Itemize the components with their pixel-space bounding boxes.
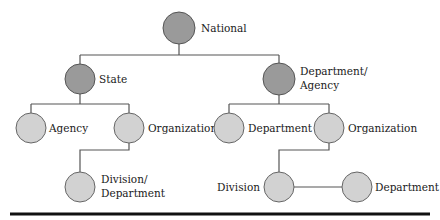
da-org-label: Organization (348, 122, 417, 134)
da-department-circle (214, 113, 244, 143)
state-div-dept-label-line2: Department (101, 187, 166, 199)
node-state-agency: Agency (16, 113, 88, 143)
state-agency-label: Agency (48, 122, 88, 134)
node-da-org: Organization (314, 113, 417, 143)
state-org-label: Organization (148, 122, 217, 134)
node-national: National (163, 12, 247, 44)
da-department-label: Department (248, 122, 313, 134)
org-hierarchy-diagram: National State Department/ Agency Agency… (0, 0, 440, 220)
state-org-circle (114, 113, 144, 143)
edge-da-org-to-division (279, 143, 329, 172)
node-da-division: Division (217, 172, 294, 202)
dept-agency-label-line1: Department/ (300, 65, 368, 77)
state-label: State (99, 73, 127, 85)
dept-agency-circle (263, 63, 295, 95)
national-label: National (201, 22, 247, 34)
dept-agency-label-line2: Agency (299, 79, 339, 91)
edge-state-org-to-div-dept (80, 143, 129, 172)
da-division-label: Division (217, 181, 260, 193)
node-state-org: Organization (114, 113, 217, 143)
da-division-circle (264, 172, 294, 202)
da-org-circle (314, 113, 344, 143)
national-circle (163, 12, 195, 44)
node-dept-agency: Department/ Agency (263, 63, 368, 95)
state-circle (65, 64, 95, 94)
state-div-dept-circle (65, 172, 95, 202)
node-state: State (65, 64, 127, 94)
state-agency-circle (16, 113, 46, 143)
node-state-div-dept: Division/ Department (65, 172, 166, 202)
state-div-dept-label-line1: Division/ (101, 173, 148, 185)
node-da-department: Department (214, 113, 313, 143)
da-div-department-label: Department (375, 181, 440, 193)
da-div-department-circle (342, 172, 372, 202)
node-da-div-department: Department (342, 172, 440, 202)
